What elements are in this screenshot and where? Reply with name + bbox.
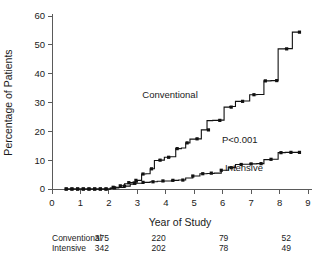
y-tick-label: 10 (34, 155, 45, 166)
censor-mark (150, 167, 153, 170)
x-tick-label: 9 (305, 197, 310, 208)
x-axis-title: Year of Study (149, 216, 212, 228)
censor-mark (275, 79, 278, 82)
y-axis-title: Percentage of Patients (2, 49, 14, 155)
censor-mark (176, 147, 179, 150)
x-tick-label: 6 (220, 197, 225, 208)
risk-row-label: Intensive (52, 243, 86, 253)
censor-mark (151, 180, 154, 183)
risk-row-value: 342 (95, 243, 109, 253)
censor-mark (134, 179, 137, 182)
censor-mark (298, 151, 301, 154)
censor-mark (171, 179, 174, 182)
y-tick-label: 60 (34, 10, 45, 21)
x-tick-label: 4 (163, 197, 168, 208)
censor-mark (76, 187, 79, 190)
censor-mark (141, 172, 144, 175)
x-tick-label: 0 (49, 197, 54, 208)
censor-mark (195, 137, 198, 140)
censor-mark (158, 159, 161, 162)
risk-row-value: 78 (219, 243, 229, 253)
y-tick-label: 30 (34, 97, 45, 108)
series-label-conventional: Conventional (142, 89, 197, 100)
risk-row-value: 375 (95, 233, 109, 243)
censor-mark (167, 156, 170, 159)
series-line-intensive (66, 152, 299, 189)
censor-mark (65, 187, 68, 190)
censor-mark (298, 31, 301, 34)
y-tick-label: 40 (34, 68, 45, 79)
censor-mark (285, 47, 288, 50)
y-tick-label: 20 (34, 126, 45, 137)
risk-row-value: 220 (152, 233, 166, 243)
risk-row-value: 52 (281, 233, 291, 243)
risk-row-value: 202 (152, 243, 166, 253)
censor-mark (141, 181, 144, 184)
risk-row-value: 49 (281, 243, 291, 253)
x-tick-label: 5 (192, 197, 197, 208)
series-label-intensive: Intensive (225, 162, 263, 173)
censor-mark (230, 106, 233, 109)
censor-mark (113, 186, 116, 189)
kaplan-meier-figure: 01020304050600123456789Year of StudyPerc… (0, 0, 321, 260)
censor-mark (264, 79, 267, 82)
censor-mark (82, 187, 85, 190)
censor-mark (289, 151, 292, 154)
censor-mark (252, 93, 255, 96)
censor-mark (70, 187, 73, 190)
censor-mark (119, 184, 122, 187)
censor-mark (269, 158, 272, 161)
censor-mark (123, 185, 126, 188)
censor-mark (181, 178, 184, 181)
censor-mark (99, 187, 102, 190)
censor-mark (241, 100, 244, 103)
risk-row-value: 79 (219, 233, 229, 243)
censor-mark (201, 172, 204, 175)
censor-mark (133, 182, 136, 185)
censor-mark (87, 187, 90, 190)
y-tick-label: 0 (40, 183, 45, 194)
censor-mark (104, 187, 107, 190)
censor-mark (191, 174, 194, 177)
chart-canvas: 01020304050600123456789Year of StudyPerc… (0, 0, 321, 260)
pvalue-annotation: P<0.001 (222, 134, 258, 145)
x-tick-label: 3 (135, 197, 140, 208)
censor-mark (220, 169, 223, 172)
x-tick-label: 1 (78, 197, 83, 208)
censor-mark (210, 172, 213, 175)
censor-mark (186, 141, 189, 144)
censor-mark (93, 187, 96, 190)
x-tick-label: 8 (277, 197, 282, 208)
x-tick-label: 7 (248, 197, 253, 208)
series-line-conventional (66, 32, 299, 189)
censor-mark (279, 151, 282, 154)
x-tick-label: 2 (106, 197, 111, 208)
censor-mark (218, 119, 221, 122)
censor-mark (161, 179, 164, 182)
y-tick-label: 50 (34, 39, 45, 50)
censor-mark (207, 128, 210, 131)
